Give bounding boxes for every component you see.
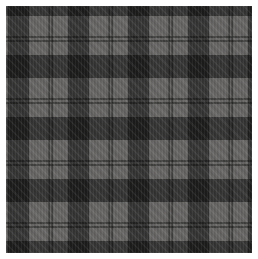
photo-frame (0, 0, 258, 259)
tartan-swatch (6, 6, 252, 253)
twill-texture-layer (6, 6, 252, 253)
